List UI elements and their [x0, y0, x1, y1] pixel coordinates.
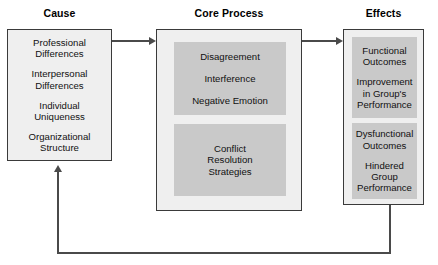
effects-dysfunctional-detail: Hindered Group Performance [357, 160, 412, 194]
core-process-box: Disagreement Interference Negative Emoti… [156, 29, 302, 211]
effects-dysfunctional-text-stack: Dysfunctional Outcomes Hindered Group Pe… [352, 123, 417, 199]
connector-feedback-arrowhead [54, 165, 62, 172]
connector-cause-to-core-line [112, 40, 149, 42]
effects-functional-detail: Improvement in Group's Performance [357, 76, 413, 110]
connector-core-to-effects-arrowhead [336, 37, 343, 45]
cause-item-organizational-structure: Organizational Structure [29, 131, 91, 153]
core-process-item-negative-emotion: Negative Emotion [192, 95, 268, 106]
column-title-core-process: Core Process [156, 7, 302, 19]
effects-functional-heading: Functional Outcomes [362, 45, 406, 67]
column-title-effects: Effects [343, 7, 424, 19]
connector-feedback-vertical-left [57, 172, 59, 253]
core-process-item-interference: Interference [204, 73, 255, 84]
cause-item-professional-differences: Professional Differences [33, 37, 86, 59]
connector-feedback-horizontal [57, 252, 391, 254]
connector-cause-to-core-arrowhead [149, 37, 156, 45]
core-process-resolution-box: Conflict Resolution Strategies [174, 124, 286, 196]
effects-functional-outcomes-box: Functional Outcomes Improvement in Group… [352, 37, 417, 118]
cause-item-individual-uniqueness: Individual Uniqueness [34, 100, 85, 122]
conflict-process-diagram: Cause Core Process Effects Professional … [0, 0, 438, 265]
core-process-conflict-elements-box: Disagreement Interference Negative Emoti… [174, 42, 286, 115]
core-process-element-list: Disagreement Interference Negative Emoti… [174, 51, 286, 107]
column-title-cause: Cause [7, 7, 112, 19]
cause-box: Professional Differences Interpersonal D… [7, 29, 112, 161]
effects-box: Functional Outcomes Improvement in Group… [343, 29, 424, 205]
cause-item-list: Professional Differences Interpersonal D… [8, 37, 111, 154]
core-process-item-disagreement: Disagreement [200, 51, 260, 62]
effects-functional-text-stack: Functional Outcomes Improvement in Group… [352, 37, 417, 118]
connector-core-to-effects-line [302, 40, 336, 42]
effects-dysfunctional-outcomes-box: Dysfunctional Outcomes Hindered Group Pe… [352, 123, 417, 199]
effects-dysfunctional-heading: Dysfunctional Outcomes [356, 128, 414, 150]
core-process-item-conflict-resolution-strategies: Conflict Resolution Strategies [174, 124, 286, 196]
connector-feedback-vertical-right [389, 205, 391, 254]
cause-item-interpersonal-differences: Interpersonal Differences [32, 68, 88, 90]
